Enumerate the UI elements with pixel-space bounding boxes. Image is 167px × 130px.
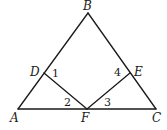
angle-label-2: 2 (64, 96, 71, 109)
point-label-C: C (152, 111, 161, 125)
point-label-B: B (82, 0, 92, 13)
point-label-F: F (80, 111, 90, 125)
geometry-diagram: B D E A F C 1 2 3 4 (0, 0, 167, 130)
angle-label-1: 1 (52, 67, 59, 80)
angle-labels: 1 2 3 4 (52, 66, 121, 109)
segment-AB (18, 13, 88, 109)
angle-label-3: 3 (104, 96, 111, 109)
point-label-E: E (133, 65, 143, 79)
segment-BC (88, 13, 156, 109)
point-label-D: D (29, 65, 40, 79)
angle-label-4: 4 (114, 66, 121, 79)
point-label-A: A (9, 111, 19, 125)
point-labels: B D E A F C (9, 0, 161, 125)
segments (18, 13, 156, 109)
